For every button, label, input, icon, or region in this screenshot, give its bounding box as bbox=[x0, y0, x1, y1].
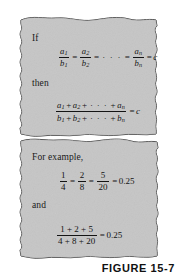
fraction-denominator: 4 bbox=[60, 182, 68, 192]
label-for-example: For example, bbox=[32, 152, 83, 162]
fraction-denominator: 8 bbox=[78, 182, 86, 192]
label-and: and bbox=[32, 200, 46, 210]
figure-caption: FIGURE 15-7 bbox=[102, 262, 175, 274]
fraction-denominator: b1 bbox=[59, 59, 70, 69]
fraction-numerator: 1 + 2 + 5 bbox=[59, 224, 95, 234]
equals-sign: = bbox=[123, 53, 131, 62]
fraction-denominator: 4 + 8 + 20 bbox=[57, 236, 97, 246]
ratio-chain-equation: a1 b1 = a2 b2 = · · · = an bn = c bbox=[57, 47, 157, 68]
fraction-numerator: 2 bbox=[78, 170, 86, 180]
equals-sign: = bbox=[92, 53, 100, 62]
example-ratio-chain-equation: 1 4 = 2 8 = 5 20 = 0.25 bbox=[58, 170, 135, 192]
fraction-numerator: a1+a2+· · ·+an bbox=[56, 100, 127, 111]
constant-c: c bbox=[136, 107, 140, 116]
equals-sign: = bbox=[98, 231, 106, 240]
figure-15-7: If a1 b1 = a2 b2 = · · · = an bn = c bbox=[0, 0, 177, 280]
fraction-denominator: 20 bbox=[97, 182, 109, 192]
equals-sign: = bbox=[69, 177, 77, 186]
example-sum-ratio-equation: 1 + 2 + 5 4 + 8 + 20 = 0.25 bbox=[55, 224, 122, 246]
fraction-numerator: a1 bbox=[59, 47, 70, 57]
equals-sign: = bbox=[145, 53, 153, 62]
decimal-result: 0.25 bbox=[119, 177, 135, 186]
fraction-a2-b2: a2 b2 bbox=[80, 47, 91, 68]
fraction-numerator: 1 bbox=[60, 170, 68, 180]
fraction-denominator: b2 bbox=[80, 59, 91, 69]
fraction-numerator: 5 bbox=[99, 170, 107, 180]
fraction-numerator: an bbox=[133, 47, 144, 57]
decimal-result: 0.25 bbox=[106, 231, 122, 240]
fraction-an-bn: an bn bbox=[133, 47, 144, 68]
fraction-5-20: 5 20 bbox=[97, 170, 109, 192]
label-then: then bbox=[32, 78, 49, 88]
equals-sign: = bbox=[71, 53, 79, 62]
fraction-denominator: b1+b2+· · ·+bn bbox=[56, 113, 127, 124]
label-if: If bbox=[32, 33, 39, 43]
ellipsis: · · · bbox=[101, 53, 124, 62]
fraction-1-4: 1 4 bbox=[60, 170, 68, 192]
equals-sign: = bbox=[111, 177, 119, 186]
fraction-denominator: bn bbox=[133, 59, 144, 69]
sum-ratio-equation: a1+a2+· · ·+an b1+b2+· · ·+bn = c bbox=[54, 100, 140, 123]
figure-content-overlay: If a1 b1 = a2 b2 = · · · = an bn = c bbox=[0, 0, 177, 280]
fraction-a1-b1: a1 b1 bbox=[59, 47, 70, 68]
fraction-2-8: 2 8 bbox=[78, 170, 86, 192]
constant-c: c bbox=[153, 53, 157, 62]
fraction-sum-a-sum-b: a1+a2+· · ·+an b1+b2+· · ·+bn bbox=[56, 100, 127, 123]
equals-sign: = bbox=[128, 107, 136, 116]
fraction-sum-1-2-5-over-4-8-20: 1 + 2 + 5 4 + 8 + 20 bbox=[57, 224, 97, 246]
equals-sign: = bbox=[87, 177, 95, 186]
fraction-numerator: a2 bbox=[80, 47, 91, 57]
